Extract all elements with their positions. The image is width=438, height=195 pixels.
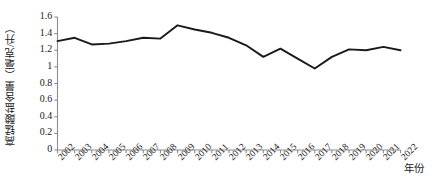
y-tick-label: 0.2 xyxy=(22,126,52,137)
y-tick-label: 1.6 xyxy=(22,10,52,21)
plot-area xyxy=(0,0,438,195)
y-tick-label: 0 xyxy=(22,143,52,154)
y-tick-label: 0.6 xyxy=(22,93,52,104)
x-axis-title: 年份 xyxy=(404,160,424,175)
y-tick-label: 0.4 xyxy=(22,110,52,121)
y-axis xyxy=(54,17,57,150)
y-tick-label: 0.8 xyxy=(22,77,52,88)
y-tick-label: 1.4 xyxy=(22,27,52,38)
data-series xyxy=(58,25,401,68)
line-chart: 高锰酸盐含量（毫克/升） 00.20.40.60.811.21.41.6 200… xyxy=(0,0,438,195)
y-tick-label: 1.2 xyxy=(22,43,52,54)
y-tick-label: 1 xyxy=(22,60,52,71)
series-line xyxy=(58,25,401,68)
